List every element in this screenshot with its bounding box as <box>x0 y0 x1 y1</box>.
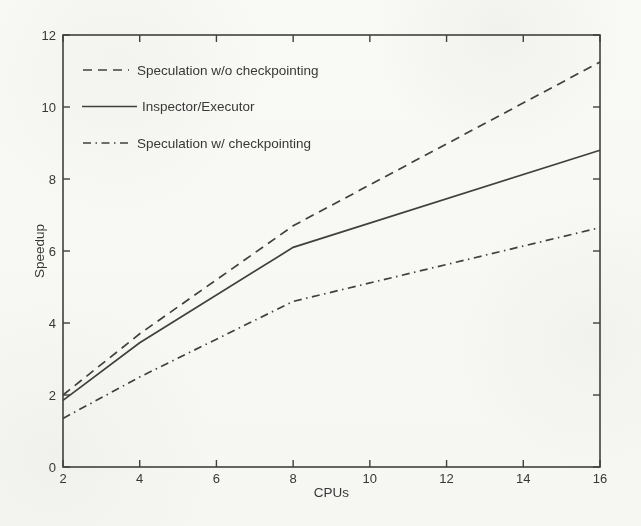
y-tick-label: 0 <box>49 460 56 475</box>
x-tick-label: 8 <box>290 471 297 486</box>
scanned-figure-page: 246810121416024681012CPUsSpeedupSpeculat… <box>0 0 641 526</box>
series-line-inspector-executor <box>63 150 600 400</box>
y-tick-label: 10 <box>42 100 56 115</box>
x-axis-label: CPUs <box>314 485 350 500</box>
y-tick-label: 12 <box>42 28 56 43</box>
x-tick-label: 12 <box>439 471 453 486</box>
x-tick-label: 10 <box>363 471 377 486</box>
y-tick-label: 6 <box>49 244 56 259</box>
y-tick-label: 8 <box>49 172 56 187</box>
legend-entry-label: Speculation w/o checkpointing <box>137 63 319 78</box>
y-tick-label: 2 <box>49 388 56 403</box>
x-tick-label: 2 <box>59 471 66 486</box>
x-tick-label: 6 <box>213 471 220 486</box>
series-line-speculation-ckpt <box>63 228 600 419</box>
x-tick-label: 14 <box>516 471 530 486</box>
legend-entry-label: Inspector/Executor <box>142 99 255 114</box>
speedup-line-chart: 246810121416024681012CPUsSpeedupSpeculat… <box>0 0 641 526</box>
y-tick-label: 4 <box>49 316 56 331</box>
x-tick-label: 16 <box>593 471 607 486</box>
y-axis-label: Speedup <box>32 224 47 278</box>
x-tick-label: 4 <box>136 471 143 486</box>
legend-entry-label: Speculation w/ checkpointing <box>137 136 311 151</box>
